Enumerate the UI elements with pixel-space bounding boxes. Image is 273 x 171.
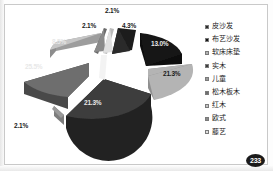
legend-item-pishafa[interactable]: 皮沙发 bbox=[205, 20, 269, 33]
legend-label: 皮沙发 bbox=[212, 23, 233, 30]
pie-label-25-5: 25.5% bbox=[25, 64, 42, 71]
pie-slice-ertong[interactable] bbox=[52, 106, 64, 125]
legend-item-shimu[interactable]: 实木 bbox=[205, 60, 269, 73]
legend-swatch-icon bbox=[205, 64, 209, 68]
pie-label-2-1-top: 2.1% bbox=[105, 8, 119, 15]
legend-label: 藤艺 bbox=[212, 129, 226, 136]
legend-item-tengyi[interactable]: 藤艺 bbox=[205, 126, 269, 139]
legend-label: 红木 bbox=[212, 102, 226, 109]
pie-slice-shimu[interactable] bbox=[66, 79, 152, 161]
legend-item-oushi[interactable]: 欧式 bbox=[205, 112, 269, 125]
pie-slice-hongmu[interactable] bbox=[50, 33, 101, 58]
legend-label: 儿童 bbox=[212, 76, 226, 83]
legend-label: 布艺沙发 bbox=[212, 36, 240, 43]
legend-swatch-icon bbox=[205, 51, 209, 55]
legend-item-hongmu[interactable]: 红木 bbox=[205, 99, 269, 112]
pie-slice-pishafa[interactable] bbox=[112, 28, 136, 54]
pie-chart-plot-area: 2.1% 2.1% 4.3% 8.5% 13.0% 21.3% 25.5% 21… bbox=[6, 6, 202, 164]
legend-swatch-icon bbox=[205, 91, 209, 95]
legend-item-ertong[interactable]: 儿童 bbox=[205, 73, 269, 86]
page-number-badge: 233 bbox=[246, 154, 265, 167]
legend-swatch-icon bbox=[205, 117, 209, 121]
pie-label-21-3-bottom: 21.3% bbox=[84, 100, 101, 107]
pie-slice-buyishafa[interactable] bbox=[140, 33, 182, 66]
chart-legend: 皮沙发 布艺沙发 软床床垫 实木 儿童 松木板木 红木 欧式 bbox=[205, 20, 269, 139]
pie-label-13-0: 13.0% bbox=[151, 41, 168, 48]
legend-label: 实木 bbox=[212, 63, 226, 70]
pie-label-21-3-right: 21.3% bbox=[163, 71, 180, 78]
legend-item-ruanchuangchuangdian[interactable]: 软床床垫 bbox=[205, 46, 269, 59]
page-edge-shading-bottom bbox=[0, 166, 273, 171]
pie-label-4-3: 4.3% bbox=[122, 23, 136, 30]
pie-label-8-5: 8.5% bbox=[52, 39, 66, 46]
legend-item-songmubanmu[interactable]: 松木板木 bbox=[205, 86, 269, 99]
legend-swatch-icon bbox=[205, 25, 209, 29]
figure-container: 2.1% 2.1% 4.3% 8.5% 13.0% 21.3% 25.5% 21… bbox=[0, 0, 273, 171]
legend-label: 欧式 bbox=[212, 115, 226, 122]
pie-label-2-1-lower-left: 2.1% bbox=[14, 123, 28, 130]
legend-swatch-icon bbox=[205, 77, 209, 81]
legend-label: 软床床垫 bbox=[212, 49, 240, 56]
pie-chart-svg bbox=[6, 6, 202, 164]
legend-item-buyishafa[interactable]: 布艺沙发 bbox=[205, 33, 269, 46]
pie-label-2-1-upper-left: 2.1% bbox=[82, 23, 96, 30]
legend-label: 松木板木 bbox=[212, 89, 240, 96]
legend-swatch-icon bbox=[205, 130, 209, 134]
legend-swatch-icon bbox=[205, 104, 209, 108]
legend-swatch-icon bbox=[205, 38, 209, 42]
